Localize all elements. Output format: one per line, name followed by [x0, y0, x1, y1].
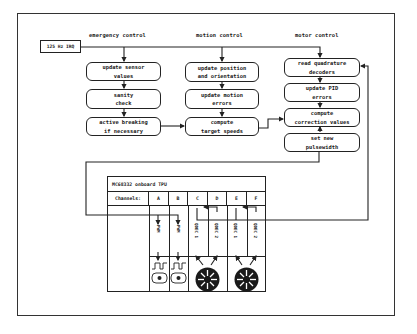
tpu-title: MC68332 onboard TPU — [108, 177, 265, 192]
channel-c: C — [188, 192, 208, 206]
header-emergency-control: emergency control — [89, 32, 146, 38]
step-set-new-pulsewidth: set new pulsewidth — [284, 133, 360, 152]
header-motion-control: motion control — [196, 32, 243, 38]
channel-b: B — [169, 192, 188, 206]
step-update-motion-errors: update motion errors — [185, 89, 259, 109]
function-qdec1-e: QDEC 1 — [233, 223, 238, 238]
tpu-table: MC68332 onboard TPU Channels: A B C D E … — [107, 176, 266, 292]
function-pwm-b: PWM — [176, 225, 181, 233]
channels-label: Channels: — [108, 192, 149, 206]
function-pwm-a: PWM — [156, 225, 161, 233]
function-qdec1-c: QDEC 1 — [194, 223, 199, 238]
channel-f: F — [247, 192, 265, 206]
encoder-wheel-icon — [194, 266, 221, 293]
function-qdec2-d: QDEC 2 — [214, 223, 219, 238]
channel-d: D — [208, 192, 227, 206]
step-active-breaking: active breaking if necessary — [86, 117, 161, 136]
channel-e: E — [227, 192, 247, 206]
step-update-position: update position and orientation — [185, 62, 259, 82]
irq-source-box: 125 Hz IRQ — [40, 40, 81, 53]
dc-motor-icon — [151, 261, 168, 285]
step-compute-target-speeds: compute target speeds — [185, 117, 259, 136]
encoder-wheel-icon — [233, 266, 260, 293]
header-motor-control: motor control — [295, 32, 339, 38]
channel-a: A — [149, 192, 169, 206]
step-sanity-check: sanity check — [86, 89, 161, 109]
step-update-pid-errors: update PID errors — [284, 83, 360, 102]
dc-motor-icon — [170, 261, 187, 285]
step-compute-correction-values: compute correction values — [284, 108, 360, 127]
function-qdec2-f: QDEC 2 — [253, 223, 258, 238]
step-read-quadrature-decoders: read quadrature decoders — [284, 58, 360, 77]
step-update-sensor-values: update sensor values — [86, 62, 161, 81]
